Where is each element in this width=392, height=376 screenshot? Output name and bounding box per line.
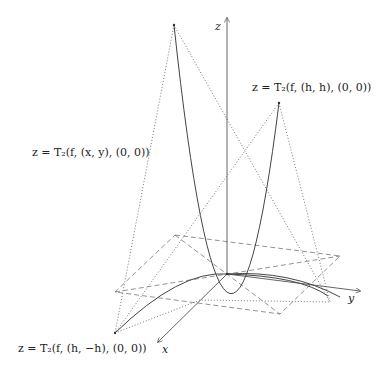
z-axis-label: z bbox=[215, 20, 221, 33]
curve-h-minus-h bbox=[115, 273, 340, 333]
y-axis bbox=[227, 274, 360, 291]
x-axis bbox=[158, 274, 227, 342]
y-axis-label: y bbox=[348, 292, 354, 305]
surface-label: z = T₂(f, (x, y), (0, 0)) bbox=[32, 146, 150, 159]
points bbox=[114, 24, 280, 334]
parabola-hh bbox=[174, 25, 279, 294]
curve-hh-label: z = T₂(f, (h, h), (0, 0)) bbox=[252, 81, 371, 94]
x-axis-label: x bbox=[162, 343, 168, 356]
curve-h-minus-h-label: z = T₂(f, (h, −h), (0, 0)) bbox=[18, 342, 147, 355]
taylor-surface-diagram: z y x z = T₂(f, (x, y), (0, 0)) z = T₂(f… bbox=[0, 0, 392, 376]
axes bbox=[158, 18, 360, 342]
diagram-canvas bbox=[0, 0, 392, 376]
